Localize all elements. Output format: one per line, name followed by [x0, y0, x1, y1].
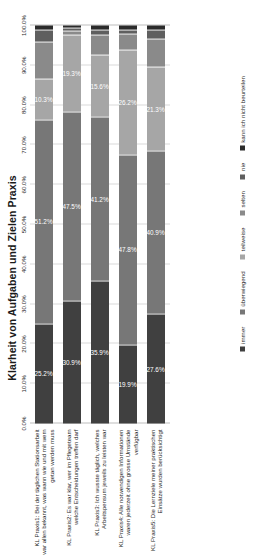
chart-frame: Klarheit von Aufgaben und Zielen Praxis … — [0, 0, 254, 555]
x-axis-tick-labels: 0.0%10.0%20.0%30.0%40.0%50.0%60.0%70.0%8… — [20, 25, 30, 423]
legend-label: nie — [239, 162, 246, 170]
stacked-bar: 30.9%47.5%19.3% — [63, 25, 80, 423]
chart-title: Klarheit von Aufgaben und Zielen Praxis — [6, 0, 18, 555]
segment-value-label: 47.5% — [63, 203, 80, 210]
stacked-bar: 35.9%41.2%15.6% — [91, 25, 108, 423]
legend-label: selten — [239, 191, 246, 208]
bar-segment — [119, 25, 136, 29]
stacked-bar: 27.6%40.9%21.3% — [147, 25, 164, 423]
legend-item[interactable]: selten — [239, 191, 246, 216]
x-tick-label: 60.0% — [20, 175, 27, 193]
category-label: KL Praxis2: Es war klar, wer im Pflegete… — [65, 429, 80, 555]
legend-label: kann ich nicht beurteilen — [239, 76, 246, 143]
bar-segment: 41.2% — [91, 116, 108, 280]
bar-segment: 47.8% — [119, 154, 136, 344]
stacked-bar: 25.2%51.2%10.3% — [35, 25, 52, 423]
bar-segment: 51.2% — [35, 119, 52, 323]
bar-segment — [91, 34, 108, 54]
segment-value-label: 19.9% — [119, 380, 136, 387]
bar-segment — [63, 30, 80, 34]
bar-segment: 26.2% — [119, 49, 136, 153]
x-tick-label: 30.0% — [20, 295, 27, 313]
segment-value-label: 47.8% — [119, 246, 136, 253]
segment-value-label: 19.3% — [63, 70, 80, 77]
bar-segment — [35, 25, 52, 29]
legend-item[interactable]: teilweise — [239, 227, 246, 259]
legend-label: überwiegend — [239, 271, 246, 306]
legend-label: immer — [239, 326, 246, 343]
bar-segment: 30.9% — [63, 300, 80, 423]
bar-segment — [119, 29, 136, 33]
bar-segment — [147, 25, 164, 29]
segment-value-label: 26.2% — [119, 98, 136, 105]
legend-swatch-icon — [240, 309, 245, 314]
bar-segment — [91, 25, 108, 29]
x-tick-label: 50.0% — [20, 215, 27, 233]
rotated-canvas: Klarheit von Aufgaben und Zielen Praxis … — [0, 0, 254, 555]
legend-label: teilweise — [239, 227, 246, 251]
bar-segment — [119, 33, 136, 49]
bar-segment: 10.3% — [35, 78, 52, 119]
segment-value-label: 10.3% — [35, 95, 52, 102]
x-tick-label: 20.0% — [20, 335, 27, 353]
stacked-bar: 19.9%47.8%26.2% — [119, 25, 136, 423]
x-tick-label: 80.0% — [20, 96, 27, 114]
category-label: KL Praxis3: Ich wusste täglich, welches … — [93, 429, 108, 555]
legend-item[interactable]: nie — [239, 162, 246, 178]
bar-segment: 27.6% — [147, 313, 164, 423]
segment-value-label: 27.6% — [147, 365, 164, 372]
category-label: KL Praxis5: Die Lernziele meiner praktis… — [149, 429, 164, 555]
chart-figure: Klarheit von Aufgaben und Zielen Praxis … — [0, 0, 254, 555]
x-tick-label: 10.0% — [20, 374, 27, 392]
segment-value-label: 25.2% — [35, 370, 52, 377]
segment-value-label: 35.9% — [91, 349, 108, 356]
legend-swatch-icon — [240, 210, 245, 215]
category-label: KL Praxis1: Bei der täglichen Stationsar… — [33, 429, 56, 555]
bar-segment: 35.9% — [91, 280, 108, 423]
x-tick-label: 40.0% — [20, 255, 27, 273]
legend-item[interactable]: kann ich nicht beurteilen — [239, 76, 246, 151]
segment-value-label: 15.6% — [91, 82, 108, 89]
bar-segment — [63, 25, 80, 27]
x-tick-label: 70.0% — [20, 136, 27, 154]
bar-segment — [35, 29, 52, 41]
bar-series-group: 25.2%51.2%10.3%30.9%47.5%19.3%35.9%41.2%… — [30, 25, 170, 423]
legend-item[interactable]: überwiegend — [239, 271, 246, 314]
plot-area: 25.2%51.2%10.3%30.9%47.5%19.3%35.9%41.2%… — [30, 25, 170, 423]
legend-swatch-icon — [240, 254, 245, 259]
segment-value-label: 21.3% — [147, 105, 164, 112]
x-tick-label: 90.0% — [20, 56, 27, 74]
bar-segment — [147, 29, 164, 38]
segment-value-label: 41.2% — [91, 195, 108, 202]
segment-value-label: 30.9% — [63, 359, 80, 366]
legend-item[interactable]: immer — [239, 326, 246, 351]
category-axis-labels: KL Praxis1: Bei der täglichen Stationsar… — [30, 425, 170, 555]
bar-segment — [35, 41, 52, 78]
bar-segment — [147, 38, 164, 66]
x-tick-label: 100.0% — [20, 15, 27, 36]
bar-segment: 21.3% — [147, 66, 164, 151]
chart-legend: immerüberwiegendteilweiseseltenniekann i… — [239, 4, 246, 423]
bar-segment: 40.9% — [147, 150, 164, 313]
bar-segment: 19.3% — [63, 34, 80, 111]
segment-value-label: 40.9% — [147, 229, 164, 236]
bar-segment: 15.6% — [91, 54, 108, 116]
bar-segment: 25.2% — [35, 323, 52, 423]
bar-segment — [91, 29, 108, 34]
bar-segment: 47.5% — [63, 111, 80, 300]
segment-value-label: 51.2% — [35, 218, 52, 225]
category-label: KL Praxis4: Alle notwendigen Information… — [117, 429, 140, 555]
legend-swatch-icon — [240, 145, 245, 150]
legend-swatch-icon — [240, 346, 245, 351]
x-tick-label: 0.0% — [20, 416, 27, 430]
legend-swatch-icon — [240, 174, 245, 179]
bar-segment: 19.9% — [119, 344, 136, 423]
